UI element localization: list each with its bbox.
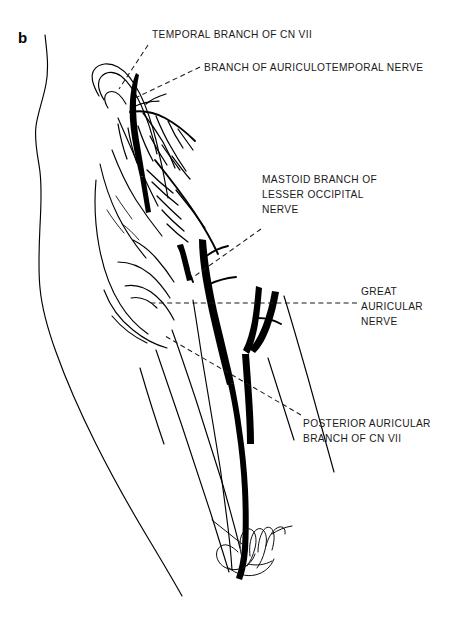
- panel-letter-b: b: [18, 29, 27, 46]
- label-great-auricular-line-3: NERVE: [361, 316, 398, 327]
- label-great-auricular-line-2: AURICULAR: [361, 301, 423, 312]
- label-mastoid-line-1: MASTOID BRANCH OF: [262, 174, 377, 185]
- label-mastoid-line-3: NERVE: [262, 204, 299, 215]
- label-great-auricular-line-1: GREAT: [361, 286, 397, 297]
- label-temporal-branch-cn7: TEMPORAL BRANCH OF CN VII: [152, 29, 312, 40]
- anatomy-illustration-canvas: b TEMPORAL BRANCH OF CN VII BRANCH OF AU…: [0, 0, 458, 623]
- label-posterior-auricular-line-1: POSTERIOR AURICULAR: [303, 418, 431, 429]
- label-mastoid-line-2: LESSER OCCIPITAL: [262, 189, 364, 200]
- anatomical-figure-panel: b TEMPORAL BRANCH OF CN VII BRANCH OF AU…: [0, 0, 458, 623]
- label-posterior-auricular-line-2: BRANCH OF CN VII: [303, 433, 401, 444]
- label-branch-of-auriculotemporal-nerve: BRANCH OF AURICULOTEMPORAL NERVE: [204, 62, 424, 73]
